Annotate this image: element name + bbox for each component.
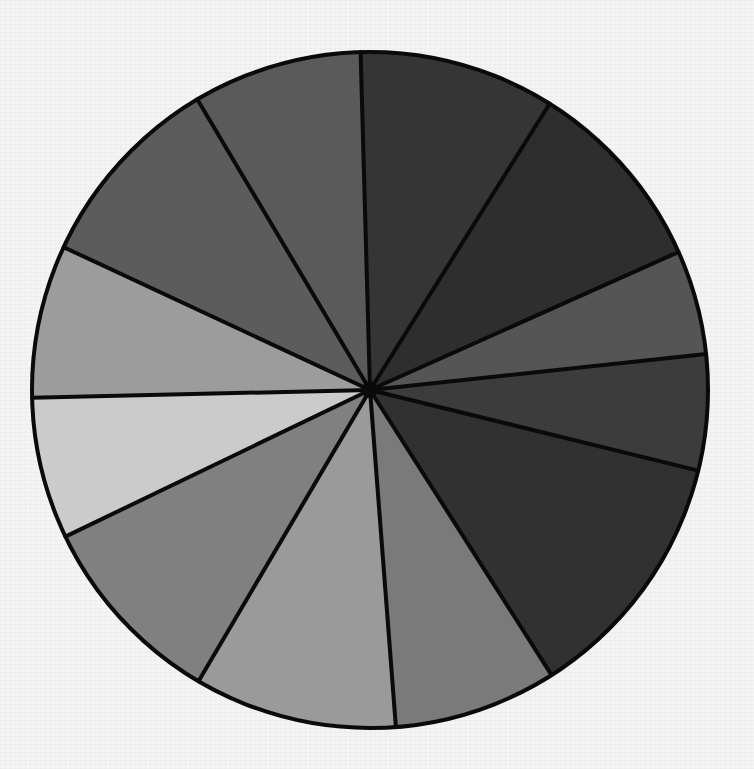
pie-chart-canvas — [0, 0, 754, 769]
pie-center-hub — [362, 382, 378, 398]
pie-chart — [0, 0, 754, 769]
